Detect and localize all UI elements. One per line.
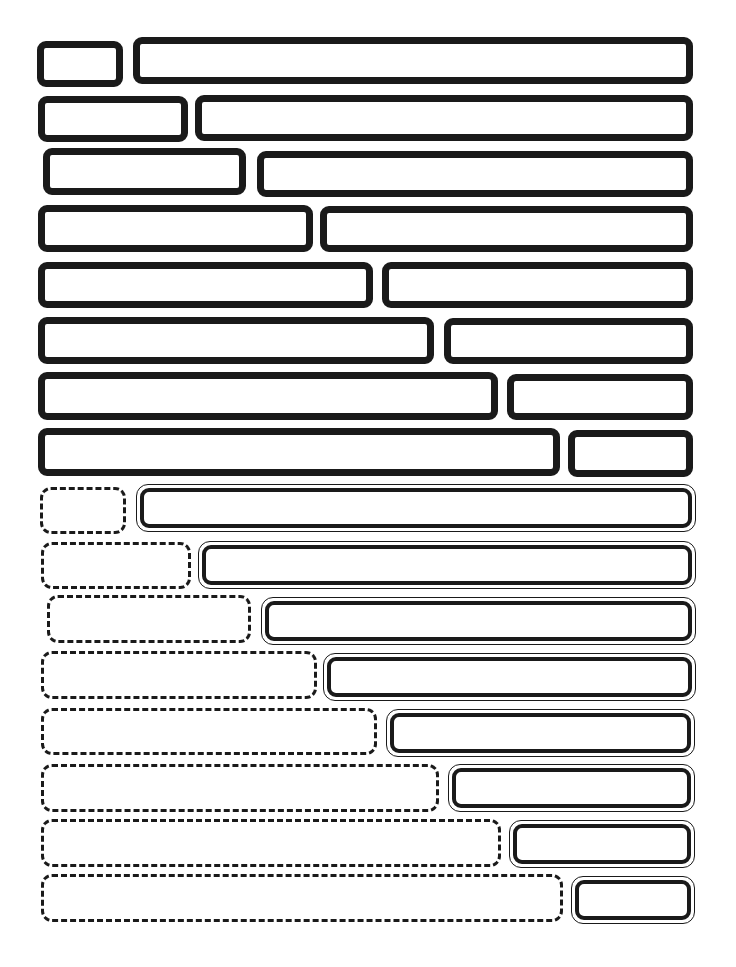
double-outline-right-box-5 xyxy=(386,709,695,757)
solid-left-box-8 xyxy=(38,428,560,476)
dashed-left-box-6 xyxy=(41,764,439,812)
solid-right-box-5 xyxy=(382,262,693,308)
double-outline-right-box-1 xyxy=(136,484,696,532)
solid-right-box-2 xyxy=(195,95,693,141)
dashed-left-box-5 xyxy=(41,708,377,755)
double-outline-right-box-6-inner-outline xyxy=(452,768,691,808)
solid-left-box-4 xyxy=(38,205,313,252)
solid-left-box-7 xyxy=(38,372,498,420)
solid-left-box-2 xyxy=(38,96,188,142)
double-outline-right-box-7-inner-outline xyxy=(513,824,691,864)
solid-right-box-7 xyxy=(507,374,693,420)
dashed-left-box-7 xyxy=(41,819,501,867)
solid-right-box-1 xyxy=(133,37,693,84)
solid-left-box-3 xyxy=(43,148,246,195)
solid-left-box-1 xyxy=(37,41,123,87)
solid-right-box-3 xyxy=(257,151,693,197)
solid-right-box-8 xyxy=(568,430,693,477)
double-outline-right-box-4-inner-outline xyxy=(327,657,692,697)
double-outline-right-box-6 xyxy=(448,764,695,812)
dashed-left-box-1 xyxy=(40,487,126,534)
double-outline-right-box-3-inner-outline xyxy=(265,601,692,641)
double-outline-right-box-2-inner-outline xyxy=(202,545,692,585)
double-outline-right-box-7 xyxy=(509,820,695,868)
dashed-left-box-4 xyxy=(41,651,317,699)
double-outline-right-box-4 xyxy=(323,653,696,701)
diagram-canvas xyxy=(0,0,736,967)
double-outline-right-box-3 xyxy=(261,597,696,645)
double-outline-right-box-2 xyxy=(198,541,696,589)
solid-right-box-6 xyxy=(444,318,693,364)
solid-right-box-4 xyxy=(320,206,693,252)
dashed-left-box-2 xyxy=(41,542,191,589)
double-outline-right-box-8-inner-outline xyxy=(575,880,691,920)
double-outline-right-box-8 xyxy=(571,876,695,924)
solid-left-box-6 xyxy=(38,317,434,364)
double-outline-right-box-5-inner-outline xyxy=(390,713,691,753)
dashed-left-box-8 xyxy=(41,874,563,922)
dashed-left-box-3 xyxy=(47,595,251,643)
double-outline-right-box-1-inner-outline xyxy=(140,488,692,528)
solid-left-box-5 xyxy=(38,262,373,308)
